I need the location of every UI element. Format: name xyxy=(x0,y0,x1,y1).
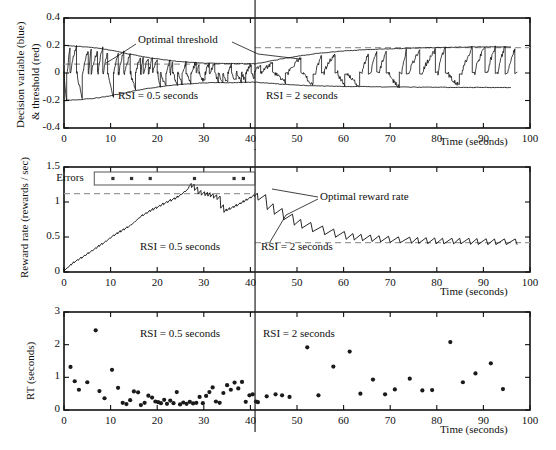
errors-label: Errors xyxy=(56,171,84,183)
figure-root: 0102030405060708090100-0.4-0.200.20.4Opt… xyxy=(0,0,556,450)
rt-data-point xyxy=(420,388,424,392)
decision-variable-ytick-label: 0.4 xyxy=(20,10,60,22)
rt-data-point xyxy=(94,328,98,332)
error-mark xyxy=(149,177,152,180)
rt-data-point xyxy=(211,385,215,389)
xlabel-panel3: Time (seconds) xyxy=(440,423,508,435)
rt-data-point xyxy=(229,388,233,392)
rt-data-point xyxy=(97,389,101,393)
rt-data-point xyxy=(165,402,169,406)
xlabel-panel2: Time (seconds) xyxy=(440,285,508,297)
rt-data-point xyxy=(225,383,229,387)
annotation-optimal-threshold: Optimal threshold xyxy=(138,33,218,45)
decision-variable-xtick-label: 0 xyxy=(50,132,78,144)
rt-data-point xyxy=(150,395,154,399)
decision-variable-ytick-label: -0.4 xyxy=(20,120,60,132)
rt-data-point xyxy=(168,398,172,402)
rt-data-point xyxy=(358,392,362,396)
rt-data-point xyxy=(110,368,114,372)
rt-data-point xyxy=(146,394,150,398)
ylabel-decision-variable-line1: Decision variable (blue) xyxy=(14,22,26,128)
rt-data-point xyxy=(256,400,260,404)
rt-data-point xyxy=(175,390,179,394)
rt-data-point xyxy=(139,403,143,407)
decision-variable-xtick-label: 10 xyxy=(97,132,125,144)
reaction-time-xtick-label: 0 xyxy=(50,414,78,426)
rt-data-point xyxy=(331,364,335,368)
rt-data-point xyxy=(204,394,208,398)
rt-data-point xyxy=(77,388,81,392)
reward-rate-xtick-label: 60 xyxy=(330,276,358,288)
error-mark xyxy=(111,177,114,180)
rt-data-point xyxy=(124,402,128,406)
reaction-time-ytick-label: 0 xyxy=(20,402,60,414)
label-rsi-right-panel1: RSI = 2 seconds xyxy=(266,89,338,101)
reaction-time-xtick-label: 60 xyxy=(330,414,358,426)
xlabel-panel1: Time (seconds) xyxy=(440,135,508,147)
reaction-time-xtick-label: 100 xyxy=(516,414,544,426)
decision-variable-axes-box xyxy=(64,18,530,128)
rt-data-point xyxy=(136,390,140,394)
leader-optimal-threshold-right xyxy=(232,42,300,59)
reaction-time-xtick-label: 30 xyxy=(190,414,218,426)
decision-variable-xtick-label: 100 xyxy=(516,132,544,144)
rt-data-point xyxy=(501,387,505,391)
rt-data-point xyxy=(473,371,477,375)
reward-rate-xtick-label: 50 xyxy=(283,276,311,288)
rt-data-point xyxy=(489,361,493,365)
error-mark xyxy=(130,177,133,180)
ylabel-reward-rate: Reward rate (rewards / sec) xyxy=(18,157,30,278)
rt-data-point xyxy=(102,396,106,400)
error-mark xyxy=(193,177,196,180)
rt-data-point xyxy=(171,401,175,405)
rt-data-point xyxy=(265,394,269,398)
reward-rate-trace xyxy=(64,183,517,271)
reaction-time-xtick-label: 20 xyxy=(143,414,171,426)
reaction-time-xtick-label: 50 xyxy=(283,414,311,426)
reaction-time-xtick-label: 40 xyxy=(236,414,264,426)
label-rsi-left-panel1: RSI = 0.5 seconds xyxy=(118,89,198,101)
rt-data-point xyxy=(121,401,125,405)
label-rsi-left-panel3: RSI = 0.5 seconds xyxy=(140,327,220,339)
decision-variable-xtick-label: 50 xyxy=(283,132,311,144)
rt-data-point xyxy=(287,395,291,399)
reward-rate-xtick-label: 20 xyxy=(143,276,171,288)
rt-data-point xyxy=(194,401,198,405)
label-rsi-right-panel3: RSI = 2 seconds xyxy=(263,327,335,339)
rt-data-point xyxy=(143,401,147,405)
rt-data-point xyxy=(408,377,412,381)
rt-data-point xyxy=(244,400,248,404)
rt-data-point xyxy=(448,340,452,344)
rt-data-point xyxy=(201,401,205,405)
rt-data-point xyxy=(232,380,236,384)
rt-data-point xyxy=(159,401,163,405)
leader-optimal-threshold-left xyxy=(106,44,136,63)
rt-data-point xyxy=(207,390,211,394)
leader-optimal-reward-rate-lower xyxy=(270,199,318,242)
reward-rate-xtick-label: 100 xyxy=(516,276,544,288)
label-rsi-left-panel2: RSI = 0.5 seconds xyxy=(140,240,220,252)
ylabel-reaction-time: RT (seconds) xyxy=(24,342,36,400)
rt-data-point xyxy=(221,391,225,395)
rt-data-point xyxy=(461,380,465,384)
rt-data-point xyxy=(68,365,72,369)
errors-box xyxy=(94,172,255,185)
decision-variable-xtick-label: 30 xyxy=(190,132,218,144)
rt-data-point xyxy=(383,392,387,396)
reward-rate-xtick-label: 70 xyxy=(376,276,404,288)
rt-data-point xyxy=(218,401,222,405)
rt-data-point xyxy=(280,393,284,397)
rt-data-point xyxy=(128,398,132,402)
reaction-time-xtick-label: 70 xyxy=(376,414,404,426)
annotation-optimal-reward-rate: Optimal reward rate xyxy=(320,190,409,202)
reward-rate-xtick-label: 40 xyxy=(236,276,264,288)
rt-data-point xyxy=(393,387,397,391)
reward-rate-xtick-label: 0 xyxy=(50,276,78,288)
reward-rate-xtick-label: 30 xyxy=(190,276,218,288)
reaction-time-ytick-label: 3 xyxy=(20,304,60,316)
rt-data-point xyxy=(198,395,202,399)
reward-rate-axes-box xyxy=(64,167,530,272)
error-mark xyxy=(242,177,245,180)
rt-data-point xyxy=(273,392,277,396)
rt-data-point xyxy=(214,399,218,403)
